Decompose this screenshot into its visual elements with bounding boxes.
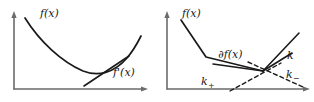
y-axis-right [164, 11, 169, 89]
label-subgradient-k-minus: k − [286, 68, 300, 83]
label-subdifferential: ∂f(x) [218, 48, 243, 61]
label-fx-right: f(x) [181, 7, 201, 20]
label-fprime-x: f'(x) [112, 66, 135, 79]
label-k-plus-base: k [201, 75, 208, 88]
y-axis-left [11, 11, 16, 89]
label-subgradient-k: k [287, 49, 294, 62]
label-k-minus-subscript: − [293, 74, 300, 83]
x-axis-left [14, 86, 148, 91]
x-axis-right [167, 86, 310, 91]
figure-subgradient-illustration: f(x) f'(x) [0, 0, 314, 102]
label-k-plus-subscript: + [208, 81, 215, 90]
panel-smooth-function: f(x) f'(x) [0, 0, 157, 102]
panel-subdifferential: f(x) ∂f(x) k k + k − [157, 0, 314, 102]
label-fx-left: f(x) [39, 7, 59, 20]
label-k-minus-base: k [286, 68, 293, 81]
label-subgradient-k-plus: k + [201, 75, 215, 90]
